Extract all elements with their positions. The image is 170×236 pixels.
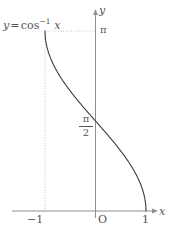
y-tick-label-pi: π — [100, 25, 107, 35]
equation-equals-sign: = — [9, 19, 20, 32]
origin-label: O — [98, 214, 107, 225]
curve-equation-label: y=cos−1 x — [3, 20, 61, 31]
x-axis-label: x — [159, 206, 165, 217]
equation-function-name: cos — [21, 19, 40, 32]
y-axis-arrowhead — [93, 9, 98, 15]
x-tick-label-one: 1 — [142, 214, 149, 225]
x-tick-label-negative-one: −1 — [27, 214, 43, 225]
x-axis-arrowhead — [152, 209, 158, 214]
fraction-numerator: π — [79, 114, 93, 127]
inverse-cosine-graph-figure: y=cos−1 x y x π π 2 O −1 1 — [0, 0, 170, 236]
arccos-curve-samples — [37, 31, 96, 121]
fraction-denominator: 2 — [79, 127, 93, 139]
y-tick-label-pi-over-two: π 2 — [79, 114, 93, 138]
equation-argument: x — [54, 19, 60, 32]
y-axis-label: y — [99, 5, 105, 16]
equation-exponent: −1 — [39, 17, 50, 26]
